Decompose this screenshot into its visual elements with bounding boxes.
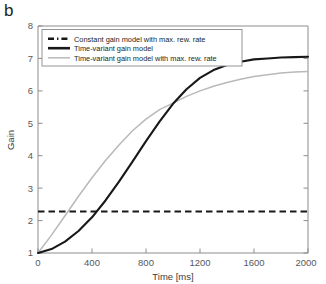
x-tickmarks [38,249,308,254]
x-tick-labels: 0 400 800 1200 1600 2000 [35,257,316,268]
y-tick-label: 4 [28,150,33,161]
series-line-time-variant [38,57,308,253]
x-tick-label: 0 [35,257,40,268]
x-tick-label: 400 [84,257,100,268]
data-curves [38,57,308,253]
y-tick-label: 5 [28,118,33,129]
legend-label: Time-variant gain model [74,44,153,53]
x-tick-label: 1200 [189,257,210,268]
legend: Constant gain model with max. rew. rate … [42,30,242,67]
x-tick-label: 800 [138,257,154,268]
y-tick-labels: 1 2 3 4 5 6 7 8 [28,20,33,258]
y-tick-label: 8 [28,20,33,31]
series-line-time-variant-max-rew-rate [38,71,308,253]
y-tick-label: 3 [28,183,33,194]
y-axis-title: Gain [5,130,16,150]
x-axis-title: Time [ms] [152,271,193,282]
legend-label: Time-variant gain model with max. rew. r… [74,54,217,63]
x-tick-label: 2000 [295,257,316,268]
y-tick-label: 6 [28,85,33,96]
legend-label: Constant gain model with max. rew. rate [74,35,205,44]
x-tick-label: 1600 [243,257,264,268]
y-tick-label: 1 [28,247,33,258]
gain-vs-time-line-chart: 1 2 3 4 5 6 7 8 0 400 800 1200 1600 2000… [0,0,326,284]
y-tick-label: 7 [28,53,33,64]
legend-item-time-variant-max-rew-rate[interactable]: Time-variant gain model with max. rew. r… [48,54,217,63]
y-tick-label: 2 [28,215,33,226]
figure-panel-b: b [0,0,326,284]
